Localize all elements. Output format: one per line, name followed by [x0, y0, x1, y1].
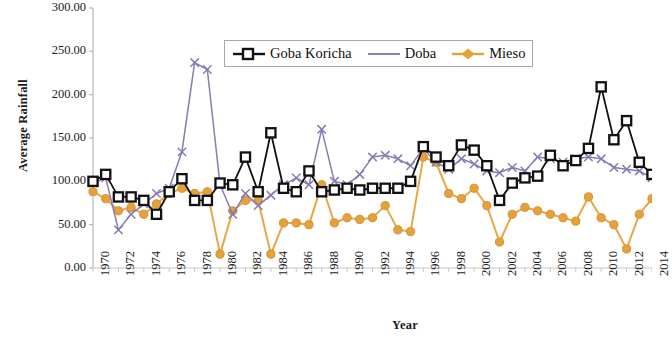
x-axis-tick-label: 1972 — [123, 251, 138, 276]
x-axis-tick-label: 2000 — [479, 251, 494, 276]
x-axis-tick-label: 1982 — [250, 251, 265, 276]
x-axis-tick-label: 2002 — [505, 251, 520, 276]
x-axis-tick-label: 2012 — [632, 251, 647, 276]
x-axis-tick-label: 1974 — [149, 251, 164, 276]
y-axis-title: Average Rainfall — [16, 51, 31, 201]
x-axis-tick-label: 1990 — [352, 251, 367, 276]
x-axis-tick-label: 1970 — [98, 251, 113, 276]
chart-legend: Goba KorichaDobaMieso — [224, 40, 533, 67]
x-axis-tick-label: 1996 — [428, 251, 443, 276]
x-axis-tick-label: 1986 — [301, 251, 316, 276]
x-axis-tick-label: 1976 — [174, 251, 189, 276]
x-axis-title: Year — [365, 318, 445, 333]
x-axis-tick-label: 1984 — [276, 251, 291, 276]
square-marker-key — [232, 46, 266, 62]
x-axis-tick-label: 2010 — [606, 251, 621, 276]
legend-item-doba: Doba — [367, 45, 436, 62]
legend-diamond-marker — [462, 49, 474, 59]
x-axis-tick-label: 1980 — [225, 251, 240, 276]
x-axis-tick-label: 1978 — [200, 251, 215, 276]
legend-label: Goba Koricha — [270, 45, 352, 62]
line-key — [367, 46, 401, 62]
legend-item-goba-koricha: Goba Koricha — [232, 45, 352, 62]
x-axis-tick-label: 2004 — [530, 251, 545, 276]
x-axis-tick-label: 2014 — [657, 251, 672, 276]
x-axis-tick-label: 2006 — [555, 251, 570, 276]
x-axis-tick-label: 2008 — [581, 251, 596, 276]
x-axis-tick-label: 1994 — [403, 251, 418, 276]
legend-square-marker — [243, 49, 253, 59]
x-axis-tick-label: 1992 — [378, 251, 393, 276]
circle-marker-key — [451, 46, 485, 62]
x-axis-tick-label: 1988 — [327, 251, 342, 276]
legend-label: Mieso — [489, 45, 525, 62]
x-axis-tick-label: 1998 — [454, 251, 469, 276]
legend-label: Doba — [405, 45, 436, 62]
legend-item-mieso: Mieso — [451, 45, 525, 62]
